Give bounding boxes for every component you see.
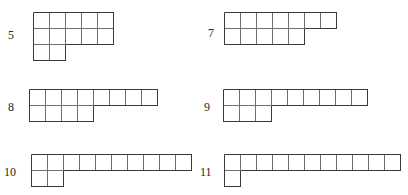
grid-cell — [30, 90, 46, 106]
grid-cell — [50, 45, 66, 61]
grid-cell — [225, 13, 241, 29]
grid-cell — [46, 106, 62, 122]
grid-cell — [94, 90, 110, 106]
grid-cell — [80, 155, 96, 171]
grid-cell — [240, 106, 256, 122]
figure-grid-5 — [32, 11, 114, 61]
grid-cell — [337, 155, 353, 171]
grid-cell — [225, 171, 241, 187]
grid-cell — [48, 171, 64, 187]
figure-grid-8 — [28, 88, 158, 122]
grid-cell — [225, 155, 241, 171]
grid-cell — [320, 90, 336, 106]
grid-cell — [273, 13, 289, 29]
figure-label-10: 10 — [4, 166, 16, 178]
grid-cell — [66, 29, 82, 45]
grid-cell — [352, 90, 368, 106]
grid-cell — [78, 90, 94, 106]
grid-cell — [62, 90, 78, 106]
grid-cell — [62, 106, 78, 122]
grid-cell — [82, 13, 98, 29]
grid-cell — [256, 106, 272, 122]
grid-cell — [98, 13, 114, 29]
grid-cell — [110, 90, 126, 106]
grid-cell — [240, 90, 256, 106]
grid-cell — [224, 90, 240, 106]
figure-grid-10 — [30, 153, 192, 187]
figure-grid-9 — [222, 88, 368, 122]
grid-cell — [30, 106, 46, 122]
grid-cell — [289, 155, 305, 171]
grid-cell — [257, 13, 273, 29]
grid-cell — [112, 155, 128, 171]
grid-cell — [160, 155, 176, 171]
grid-cell — [304, 90, 320, 106]
figure-label-9: 9 — [204, 101, 210, 113]
figure-grid-7 — [223, 11, 337, 45]
grid-cell — [241, 13, 257, 29]
grid-cell — [34, 29, 50, 45]
grid-cell — [142, 90, 158, 106]
figure-label-8: 8 — [8, 101, 14, 113]
figure-label-5: 5 — [8, 29, 14, 41]
grid-cell — [273, 29, 289, 45]
grid-cell — [128, 155, 144, 171]
grid-cell — [144, 155, 160, 171]
grid-cell — [126, 90, 142, 106]
figure-grid-11 — [223, 153, 401, 187]
grid-cell — [48, 155, 64, 171]
grid-cell — [225, 29, 241, 45]
grid-cell — [32, 171, 48, 187]
grid-cell — [176, 155, 192, 171]
grid-cell — [224, 106, 240, 122]
grid-cell — [369, 155, 385, 171]
grid-cell — [257, 29, 273, 45]
grid-cell — [305, 13, 321, 29]
grid-cell — [353, 155, 369, 171]
grid-cell — [241, 155, 257, 171]
grid-cell — [78, 106, 94, 122]
grid-cell — [305, 155, 321, 171]
grid-cell — [82, 29, 98, 45]
figure-board: 57891011 — [0, 0, 408, 195]
grid-cell — [289, 13, 305, 29]
grid-cell — [50, 29, 66, 45]
grid-cell — [50, 13, 66, 29]
grid-cell — [272, 90, 288, 106]
grid-cell — [98, 29, 114, 45]
grid-cell — [66, 13, 82, 29]
grid-cell — [256, 90, 272, 106]
grid-cell — [385, 155, 401, 171]
grid-cell — [289, 29, 305, 45]
grid-cell — [336, 90, 352, 106]
grid-cell — [46, 90, 62, 106]
grid-cell — [34, 45, 50, 61]
grid-cell — [96, 155, 112, 171]
grid-cell — [257, 155, 273, 171]
grid-cell — [64, 155, 80, 171]
grid-cell — [288, 90, 304, 106]
grid-cell — [34, 13, 50, 29]
grid-cell — [241, 29, 257, 45]
grid-cell — [321, 155, 337, 171]
grid-cell — [321, 13, 337, 29]
grid-cell — [32, 155, 48, 171]
grid-cell — [273, 155, 289, 171]
figure-label-7: 7 — [208, 27, 214, 39]
figure-label-11: 11 — [200, 166, 212, 178]
